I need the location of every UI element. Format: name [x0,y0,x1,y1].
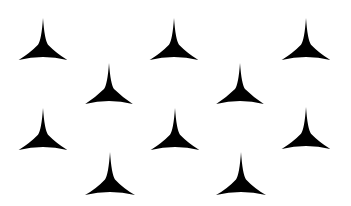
star-shape-2 [150,18,199,60]
star-shape-4 [85,63,133,104]
star-shape-10 [216,152,266,195]
star-shape-6 [19,108,68,150]
star-shape-1 [19,18,68,60]
star-shape-9 [85,152,135,195]
star-pattern [0,0,351,206]
star-shape-7 [151,108,200,150]
star-shape-3 [282,18,331,60]
star-shape-5 [216,63,264,104]
star-shape-8 [282,107,331,149]
